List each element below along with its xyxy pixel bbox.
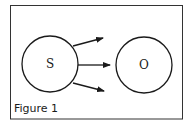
- node-s: S: [22, 36, 78, 92]
- node-s-label: S: [46, 57, 54, 71]
- node-o-label: O: [139, 58, 149, 72]
- node-o: O: [116, 37, 172, 93]
- arrow-lower: [73, 83, 104, 91]
- arrow-upper: [73, 38, 103, 46]
- figure-caption: Figure 1: [14, 102, 58, 115]
